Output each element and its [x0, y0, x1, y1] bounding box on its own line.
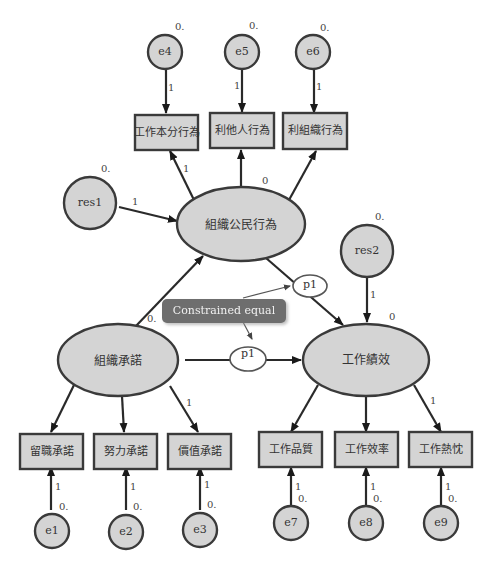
variance-commitment: 0.	[147, 313, 157, 324]
weight-e4: 1	[168, 82, 174, 93]
observed-var-retention[interactable]: 留職承諾	[20, 434, 83, 469]
variance-e4: 0.	[175, 21, 185, 32]
weight-res2: 1	[370, 289, 376, 300]
box-label: 工作熱忱	[419, 442, 463, 456]
weight-e2: 1	[130, 481, 136, 492]
param-text: p1	[241, 347, 255, 360]
box-label: 利他人行為	[215, 123, 270, 137]
variance-res2: 0.	[375, 211, 385, 222]
param-label-p1-lower[interactable]: p1	[230, 347, 266, 371]
error-node-e2[interactable]: e2	[109, 515, 143, 549]
variance-e1: 0.	[59, 501, 69, 512]
latent-label: 工作績效	[342, 352, 390, 367]
residual-label: res1	[78, 196, 102, 209]
latent-label: 組織公民行為	[205, 218, 277, 232]
sem-path-diagram: e4 e5 e6 0. 0. 0. 1 1 1 工作本分行為 利他人行為 利組織…	[0, 0, 496, 567]
variance-res1: 0.	[101, 163, 111, 174]
loading-commitment-item3: 1	[186, 397, 192, 408]
error-label: e1	[45, 524, 59, 537]
weight-e1: 1	[55, 481, 61, 492]
error-label: e8	[359, 516, 373, 529]
box-label: 努力承諾	[104, 444, 148, 458]
variance-performance: 0	[389, 311, 395, 322]
box-label: 工作效率	[345, 442, 389, 456]
path-ocb-to-item1	[170, 151, 194, 200]
weight-e6: 1	[316, 81, 322, 92]
weight-e5: 1	[234, 80, 240, 91]
error-label: e3	[193, 523, 207, 536]
weight-e8: 1	[370, 481, 376, 492]
loading-ocb-item1: 1	[183, 163, 189, 174]
error-node-e4[interactable]: e4	[148, 35, 182, 69]
path-commitment-to-item1	[51, 385, 74, 432]
error-node-e1[interactable]: e1	[35, 514, 69, 548]
box-label: 價值承諾	[178, 444, 222, 458]
latent-label: 組織承諾	[94, 353, 142, 368]
loading-performance-item3: 1	[430, 395, 436, 406]
weight-res1: 1	[132, 196, 138, 207]
latent-ocb[interactable]: 組織公民行為	[177, 187, 305, 261]
error-label: e6	[306, 45, 320, 58]
param-label-p1-upper[interactable]: p1	[293, 275, 327, 297]
error-label: e2	[119, 525, 133, 538]
variance-e2: 0.	[133, 501, 143, 512]
error-node-e9[interactable]: e9	[424, 506, 458, 540]
constrained-equal-note: Constrained equal	[162, 299, 286, 323]
observed-var-altruism[interactable]: 利他人行為	[210, 113, 274, 148]
observed-var-org-benefit[interactable]: 利組織行為	[283, 113, 347, 149]
box-label: 工作本分行為	[134, 125, 200, 139]
box-label: 利組織行為	[288, 123, 343, 137]
note-label: Constrained equal	[173, 304, 276, 317]
latent-performance[interactable]: 工作績效	[303, 324, 429, 396]
path-commitment-to-item2	[122, 396, 124, 432]
residual-label: res2	[355, 244, 379, 257]
observed-var-work-duty[interactable]: 工作本分行為	[134, 115, 200, 150]
error-label: e7	[284, 516, 298, 529]
observed-var-efficiency[interactable]: 工作效率	[335, 432, 398, 467]
variance-e8: 0.	[373, 493, 383, 504]
error-node-e8[interactable]: e8	[349, 506, 383, 540]
observed-var-effort[interactable]: 努力承諾	[94, 434, 157, 469]
box-label: 工作品質	[269, 442, 313, 456]
callout-pointer-lower	[243, 322, 252, 339]
error-node-e7[interactable]: e7	[274, 506, 308, 540]
param-text: p1	[303, 278, 317, 291]
error-node-e5[interactable]: e5	[225, 35, 259, 69]
residual-node-res1[interactable]: res1	[64, 177, 116, 229]
error-node-e6[interactable]: e6	[296, 35, 330, 69]
weight-e9: 1	[445, 481, 451, 492]
path-res1-to-ocb	[119, 207, 177, 221]
variance-e5: 0.	[249, 20, 259, 31]
latent-commitment[interactable]: 組織承諾	[58, 324, 178, 396]
error-node-e3[interactable]: e3	[183, 513, 217, 547]
variance-e7: 0.	[298, 493, 308, 504]
variance-e6: 0.	[320, 22, 330, 33]
observed-var-quality[interactable]: 工作品質	[259, 432, 322, 467]
path-commitment-to-item3	[170, 386, 198, 432]
variance-e9: 0.	[448, 493, 458, 504]
callout-pointer-upper	[243, 286, 290, 298]
weight-e7: 1	[295, 481, 301, 492]
error-label: e9	[434, 516, 448, 529]
box-label: 留職承諾	[30, 444, 74, 458]
variance-e3: 0.	[207, 499, 217, 510]
path-performance-to-item3	[414, 385, 441, 432]
path-ocb-to-item3	[289, 151, 316, 200]
variance-ocb: 0	[262, 175, 268, 186]
residual-node-res2[interactable]: res2	[341, 225, 393, 277]
path-performance-to-item1	[291, 385, 318, 432]
observed-var-value[interactable]: 價值承諾	[168, 434, 231, 469]
error-label: e4	[158, 45, 172, 58]
error-label: e5	[235, 45, 249, 58]
observed-var-enthusiasm[interactable]: 工作熱忱	[409, 432, 472, 467]
weight-e3: 1	[204, 479, 210, 490]
